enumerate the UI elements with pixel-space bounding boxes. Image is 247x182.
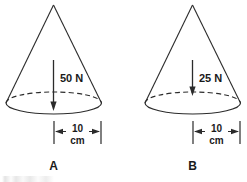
force-label-b: 25 N xyxy=(199,72,222,84)
dim-b-arrowhead-left xyxy=(194,129,202,135)
cone-b-left-slant xyxy=(145,5,193,103)
force-label-a: 50 N xyxy=(60,72,83,84)
cone-a-right-slant xyxy=(54,5,102,103)
dim-b-value: 10 xyxy=(211,123,223,134)
cone-diagram-b: 25 N 10 cm B xyxy=(145,5,241,173)
cone-b-base-front xyxy=(145,103,241,114)
cone-diagram-a: 50 N 10 cm A xyxy=(6,5,102,173)
force-arrow-b-head xyxy=(189,87,195,97)
panel-label-b: B xyxy=(188,159,197,173)
dim-a-arrowhead-right xyxy=(92,129,100,135)
cone-b-right-slant xyxy=(193,5,241,103)
physics-figure: 50 N 10 cm A xyxy=(0,0,247,182)
dim-a-unit: cm xyxy=(70,135,85,146)
dim-a-arrowhead-left xyxy=(55,129,63,135)
force-arrow-a-head xyxy=(50,102,56,112)
dim-b-arrowhead-right xyxy=(231,129,239,135)
figure-canvas: 50 N 10 cm A xyxy=(0,0,247,182)
cone-a-left-slant xyxy=(6,5,54,103)
dim-b-unit: cm xyxy=(209,135,224,146)
dim-a-value: 10 xyxy=(72,123,84,134)
panel-label-a: A xyxy=(49,159,58,173)
